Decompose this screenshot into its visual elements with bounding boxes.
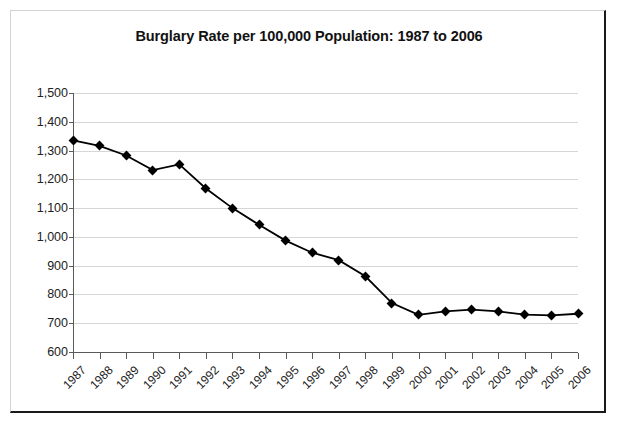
x-axis-tick-mark: [551, 353, 552, 359]
y-axis-tick-mark: [69, 237, 74, 238]
y-axis-tick-mark: [69, 323, 74, 324]
x-axis-tick-mark: [339, 353, 340, 359]
x-axis-tick-mark: [419, 353, 420, 359]
x-axis-tick-mark: [286, 353, 287, 359]
x-axis-tick-mark: [232, 353, 233, 359]
x-axis-tick-mark: [445, 353, 446, 359]
x-axis-tick-mark: [100, 353, 101, 359]
burglary-rate-line: [0, 0, 618, 425]
y-axis-tick-mark: [69, 266, 74, 267]
x-axis-tick-mark: [312, 353, 313, 359]
y-axis-tick-mark: [69, 208, 74, 209]
x-axis-tick-mark: [259, 353, 260, 359]
y-axis-tick-mark: [69, 122, 74, 123]
y-axis-tick-mark: [69, 294, 74, 295]
x-axis-tick-mark: [126, 353, 127, 359]
x-axis-tick-mark: [525, 353, 526, 359]
x-axis-tick-mark: [472, 353, 473, 359]
y-axis-tick-mark: [69, 151, 74, 152]
y-axis-tick-mark: [69, 179, 74, 180]
x-axis-tick-mark: [153, 353, 154, 359]
x-axis-tick-mark: [578, 353, 579, 359]
y-axis-tick-mark: [69, 93, 74, 94]
x-axis-tick-mark: [498, 353, 499, 359]
x-axis-tick-mark: [365, 353, 366, 359]
x-axis-tick-mark: [206, 353, 207, 359]
x-axis-tick-mark: [392, 353, 393, 359]
x-axis-tick-mark: [179, 353, 180, 359]
x-axis-tick-mark: [73, 353, 74, 359]
